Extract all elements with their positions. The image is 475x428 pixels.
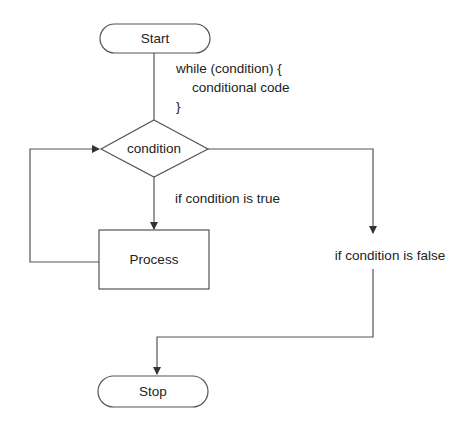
- condition-label: condition: [127, 142, 181, 156]
- stop-label: Stop: [139, 385, 167, 399]
- code-line-3: }: [176, 100, 181, 114]
- process-label: Process: [130, 253, 179, 267]
- edge-loop-back: [30, 149, 99, 262]
- true-branch-label: if condition is true: [175, 192, 280, 206]
- start-label: Start: [141, 32, 170, 46]
- false-branch-label: if condition is false: [335, 249, 445, 263]
- code-line-1: while (condition) {: [176, 62, 282, 76]
- code-line-2: conditional code: [192, 81, 290, 95]
